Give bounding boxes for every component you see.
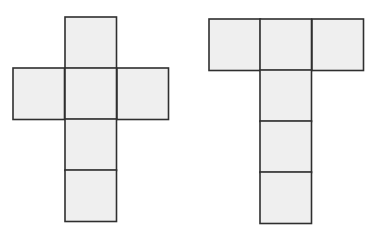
t-net-square-5 — [260, 121, 312, 173]
t-net-square-2 — [260, 19, 312, 71]
cross-net-square-4 — [117, 68, 169, 120]
cross-net-square-1 — [65, 17, 117, 69]
cross-net-square-2 — [13, 68, 65, 120]
t-net-square-6 — [260, 172, 312, 224]
t-net — [209, 19, 364, 224]
cross-net-square-3 — [65, 68, 117, 120]
t-net-square-4 — [260, 70, 312, 122]
t-net-square-3 — [312, 19, 364, 71]
cross-net — [13, 17, 169, 222]
cross-net-square-5 — [65, 119, 117, 171]
t-net-square-1 — [209, 19, 261, 71]
cross-net-square-6 — [65, 170, 117, 222]
cube-nets-diagram — [0, 0, 374, 230]
